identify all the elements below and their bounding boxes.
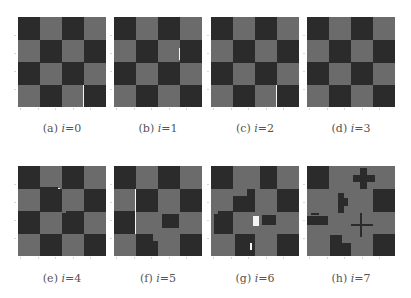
y-tick [207,89,209,90]
checkerboard-plot [114,17,202,107]
dark-square [114,62,136,85]
y-axis-ticks [14,166,17,256]
y-tick [303,35,305,36]
light-region [62,211,66,213]
light-region [211,211,214,234]
y-axis-ticks [14,17,17,107]
x-tick [55,108,56,110]
dark-square [18,211,40,234]
x-tick [186,257,187,259]
y-tick [110,53,112,54]
white-region [58,188,60,190]
caption-value: =0 [65,122,81,135]
checkerboard-plot [18,17,106,107]
y-tick [14,202,16,203]
dark-square [277,189,299,212]
x-tick [90,108,91,110]
dark-square [18,17,40,40]
y-axis-ticks [110,166,113,256]
dark-square [211,62,233,85]
x-tick [309,108,310,110]
light-region [233,189,247,196]
dark-square [180,234,202,257]
dark-square [18,166,40,189]
x-tick [38,257,39,259]
subfigure-a [18,17,106,107]
caption-value: =4 [65,272,81,285]
y-tick [303,89,305,90]
x-tick [283,257,284,259]
dark-square [180,189,202,212]
subfigure-g [211,166,299,256]
dark-square [277,40,299,63]
x-axis-ticks [18,108,106,111]
y-tick [110,71,112,72]
y-axis-ticks [303,166,306,256]
x-tick [231,108,232,110]
white-region [250,243,253,249]
x-tick [116,257,117,259]
subfigure-h [307,166,395,256]
y-tick [14,35,16,36]
subfigure-caption-b: (b) i=1 [139,122,178,135]
dark-square [40,40,62,63]
x-tick [20,257,21,259]
x-tick [266,257,267,259]
y-tick [303,71,305,72]
x-tick [283,108,284,110]
dark-square [40,85,62,108]
y-tick [14,238,16,239]
caption-label: (e) [43,272,62,285]
dark-square [114,166,136,189]
x-axis-ticks [307,108,395,111]
dark-square [40,189,62,212]
y-tick [110,35,112,36]
y-axis-ticks [207,166,210,256]
dark-square [211,166,233,189]
y-tick [110,184,112,185]
dark-square [136,85,158,108]
light-region [211,211,218,214]
caption-value: =6 [258,272,274,285]
dark-region [311,213,320,216]
dark-square [277,85,299,108]
x-tick [309,257,310,259]
y-tick [110,238,112,239]
caption-value: =1 [161,122,177,135]
checkerboard-plot [211,17,299,107]
caption-value: =2 [258,122,274,135]
white-region [179,48,180,61]
dark-square [158,62,180,85]
x-tick [186,108,187,110]
white-region [83,85,85,108]
x-tick [116,108,117,110]
y-axis-ticks [110,17,113,107]
subfigure-caption-e: (e) i=4 [43,272,81,285]
dark-square [136,189,158,212]
dark-square [233,85,255,108]
dark-square [84,85,106,108]
caption-label: (a) [43,122,62,135]
dark-square [255,62,277,85]
x-tick [73,108,74,110]
dark-region [330,235,342,256]
y-tick [303,220,305,221]
x-tick [213,108,214,110]
checkerboard-plot [18,166,106,256]
dark-square [373,189,395,212]
subfigure-caption-h: (h) i=7 [332,272,371,285]
x-tick [134,108,135,110]
y-tick [207,35,209,36]
dark-square [62,166,84,189]
dark-square [211,17,233,40]
y-tick [14,184,16,185]
dark-region [342,243,351,257]
x-tick [266,108,267,110]
dark-square [84,40,106,63]
dark-square [307,62,329,85]
checkerboard-plot [307,166,395,256]
x-tick [379,108,380,110]
dark-square [114,211,136,234]
y-tick [303,238,305,239]
y-tick [14,220,16,221]
